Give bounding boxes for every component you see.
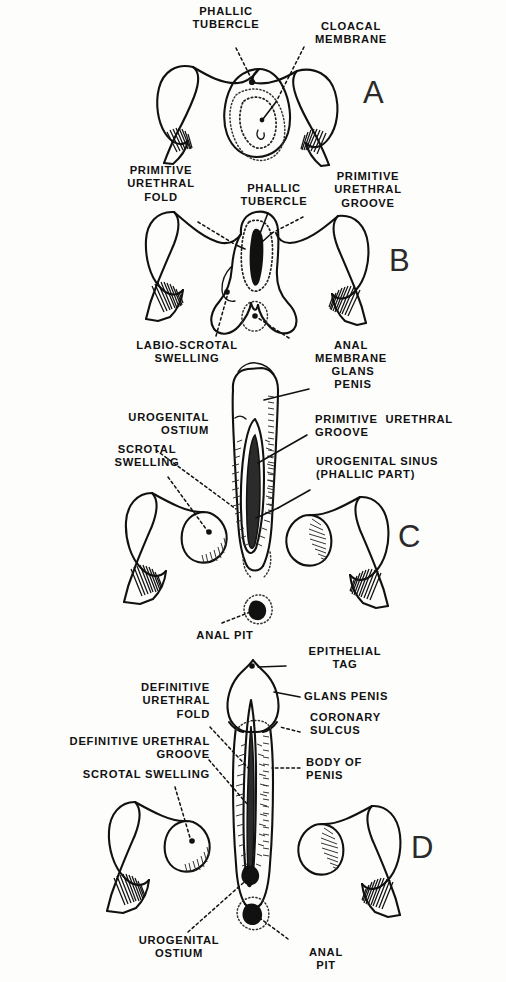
anal-pit-marker-d <box>242 903 262 925</box>
label-definitive-urethral-groove-d: DEFINITIVE URETHRAL GROOVE <box>14 735 210 762</box>
label-primitive-urethral-groove-b: PRIMITIVE URETHRAL GROOVE <box>305 170 431 210</box>
panel-letter-a: A <box>363 77 384 108</box>
shading-right-scrotum-c <box>309 519 326 560</box>
panel-c-drawing <box>124 363 388 624</box>
panel-letter-d: D <box>411 832 433 863</box>
label-anal-membrane-b: ANAL MEMBRANE <box>290 339 412 366</box>
label-urogenital-sinus-c: UROGENITAL SINUS (PHALLIC PART) <box>316 455 502 482</box>
feather-raphe-left-d <box>236 744 248 876</box>
label-anal-pit-d: ANAL PIT <box>288 946 364 973</box>
panel-a-drawing <box>157 47 337 166</box>
shading-shaft-right-d <box>263 736 269 856</box>
epithelial-tag-marker-d <box>249 663 255 669</box>
phallic-tubercle-marker-a <box>249 79 255 85</box>
anal-pit-marker-c <box>248 600 266 620</box>
hatching-left-b <box>152 282 183 312</box>
hatching-right-a <box>301 129 326 154</box>
shading-right-scrotum-d <box>321 828 338 869</box>
feather-groove-left-c <box>232 440 248 546</box>
hatching-left-a <box>167 128 192 152</box>
label-body-of-penis-d: BODY OF PENIS <box>306 756 426 783</box>
label-definitive-urethral-fold-d: DEFINITIVE URETHRAL FOLD <box>92 681 210 721</box>
labio-scrotal-marker-b <box>224 289 230 295</box>
hatching-left-d <box>114 874 145 905</box>
scrotal-swelling-marker-c <box>206 529 212 535</box>
label-epithelial-tag-d: EPITHELIAL TAG <box>287 645 403 672</box>
panel-b-drawing <box>146 212 369 338</box>
hatching-right-c <box>350 569 381 600</box>
label-primitive-urethral-groove-c: PRIMITIVE URETHRAL GROOVE <box>315 413 505 440</box>
label-primitive-urethral-fold-b: PRIMITIVE URETHRAL FOLD <box>98 164 224 204</box>
hatching-left-c <box>131 565 162 596</box>
label-urogenital-ostium-c: UROGENITAL OSTIUM <box>85 411 209 438</box>
label-scrotal-swelling-c: SCROTAL SWELLING <box>85 443 209 470</box>
hatching-right-b <box>329 286 360 316</box>
shading-shaft-right-c <box>268 396 274 511</box>
label-urogenital-ostium-d: UROGENITAL OSTIUM <box>104 934 254 961</box>
label-phallic-tubercle-a: PHALLIC TUBERCLE <box>161 5 291 32</box>
label-coronary-sulcus-d: CORONARY SULCUS <box>310 711 440 738</box>
label-cloacal-membrane-a: CLOACAL MEMBRANE <box>281 20 421 47</box>
anal-membrane-marker-b <box>252 313 258 319</box>
scrotal-swelling-marker-d <box>189 838 195 844</box>
shading-left-scrotum-c <box>202 538 226 563</box>
label-glans-penis-c: GLANS PENIS <box>300 365 406 392</box>
panel-letter-b: B <box>389 245 410 276</box>
figure-page: PHALLIC TUBERCLE CLOACAL MEMBRANE A PRIM… <box>0 0 506 982</box>
label-scrotal-swelling-d: SCROTAL SWELLING <box>36 768 210 781</box>
label-glans-penis-d: GLANS PENIS <box>304 690 454 703</box>
feather-raphe-right-d <box>255 744 267 876</box>
label-anal-pit-c: ANAL PIT <box>173 629 277 642</box>
label-labio-scrotal-swelling-b: LABIO-SCROTAL SWELLING <box>104 339 270 366</box>
shading-left-scrotum-d <box>185 847 209 872</box>
hatching-right-d <box>362 878 393 909</box>
panel-letter-c: C <box>398 521 420 552</box>
urogenital-ostium-marker-d <box>241 865 259 885</box>
feather-groove-right-c <box>258 440 274 546</box>
